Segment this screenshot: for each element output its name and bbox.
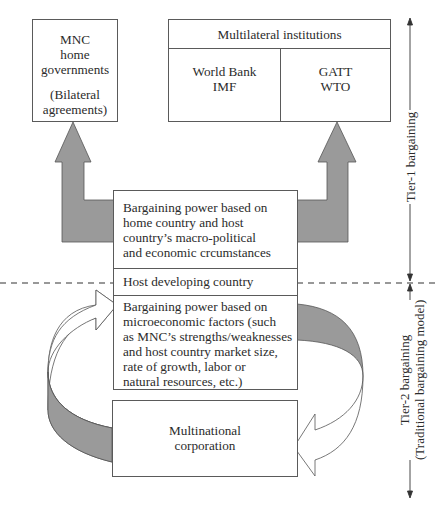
micro-line: and host country market size, (123, 344, 297, 359)
micro-line: as MNC’s strengths/weaknesses (123, 329, 297, 344)
macro-line: country’s macro-political (123, 230, 293, 245)
cycle-band-right-shaded (297, 304, 363, 376)
mnc-home-title-line: governments (33, 62, 117, 77)
mnc-home-title-line: MNC (33, 32, 117, 47)
mnc-home-title-line: home (33, 47, 117, 62)
mnc-corp-line: corporation (113, 438, 297, 453)
host-label-section: Host developing country (114, 268, 297, 296)
tier-2-line1: Tier-2 bargaining (397, 300, 412, 460)
arrow-up-left-icon (55, 122, 114, 242)
macro-line: home country and host (123, 215, 293, 230)
tier-2-bargaining-label: Tier-2 bargaining (Traditional bargainin… (397, 300, 427, 460)
multinational-corporation-box: Multinational corporation (112, 400, 298, 477)
multinational-corporation-text: Multinational corporation (113, 423, 297, 453)
host-country-box: Bargaining power based on home country a… (113, 190, 298, 390)
imf-label: IMF (169, 79, 280, 94)
multilateral-institutions-box: Multilateral institutions World Bank IMF… (168, 19, 391, 122)
gatt-wto-cell: GATT WTO (281, 64, 390, 94)
world-bank-label: World Bank (169, 64, 280, 79)
mnc-home-note-line: agreements) (33, 102, 117, 117)
mnc-home-governments-box: MNC home governments (Bilateral agreemen… (32, 19, 118, 122)
host-developing-country-label: Host developing country (123, 274, 253, 289)
micro-line: natural resources, etc.) (123, 374, 297, 389)
wto-label: WTO (281, 79, 390, 94)
arrow-up-right-icon (296, 122, 356, 242)
multilateral-header: Multilateral institutions (169, 20, 390, 49)
micro-bargaining-text: Bargaining power based on microeconomic … (123, 299, 297, 389)
macro-line: Bargaining power based on (123, 200, 293, 215)
cycle-arrow-left-icon (294, 376, 363, 476)
gatt-label: GATT (281, 64, 390, 79)
cycle-band-left-fill (48, 372, 112, 462)
cycle-arrow-right-head (48, 290, 117, 372)
micro-line: Bargaining power based on (123, 299, 297, 314)
tier-2-line2: (Traditional bargaining model) (412, 300, 427, 460)
world-bank-imf-cell: World Bank IMF (169, 64, 280, 94)
micro-line: rate of growth, labor or (123, 359, 297, 374)
macro-line: and economic crcumstances (123, 245, 293, 260)
mnc-home-note-line: (Bilateral (33, 87, 117, 102)
multilateral-header-label: Multilateral institutions (169, 27, 390, 42)
mnc-corp-line: Multinational (113, 423, 297, 438)
micro-line: microeconomic factors (such (123, 314, 297, 329)
macro-bargaining-text: Bargaining power based on home country a… (123, 200, 293, 260)
tier-1-bargaining-label: Tier-1 bargaining (403, 109, 418, 205)
